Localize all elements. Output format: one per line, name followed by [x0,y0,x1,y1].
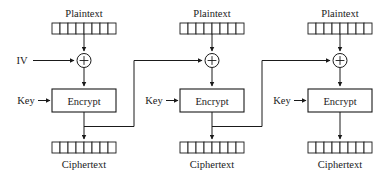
encrypt-label-2: Encrypt [195,96,228,107]
stage-1: Plaintext IV Key [16,8,202,170]
plaintext-cells-2 [180,23,244,34]
ciphertext-label-2: Ciphertext [190,159,234,170]
ciphertext-cells-2 [180,142,244,153]
ciphertext-label-3: Ciphertext [318,159,362,170]
xor-gate-1 [77,54,91,68]
ciphertext-label-1: Ciphertext [62,159,106,170]
xor-gate-3 [333,54,347,68]
cbc-diagram-canvas: Plaintext IV Key [0,0,387,177]
key-label-1: Key [17,95,35,106]
plaintext-cells-1 [52,23,116,34]
encrypt-label-3: Encrypt [323,96,356,107]
encrypt-label-1: Encrypt [67,96,100,107]
key-label-2: Key [145,95,163,106]
key-label-3: Key [273,95,291,106]
xor-gate-2 [205,54,219,68]
plaintext-label-3: Plaintext [321,8,358,19]
iv-label-1: IV [16,55,27,66]
plaintext-label-2: Plaintext [193,8,230,19]
plaintext-label-1: Plaintext [65,8,102,19]
ciphertext-cells-1 [52,142,116,153]
cbc-mode-encryption-diagram: Plaintext IV Key [0,0,387,177]
plaintext-cells-3 [308,23,372,34]
ciphertext-cells-3 [308,142,372,153]
stage-2: Plaintext Key Encrypt [145,8,330,170]
stage-3: Plaintext Key Encrypt [273,8,372,170]
